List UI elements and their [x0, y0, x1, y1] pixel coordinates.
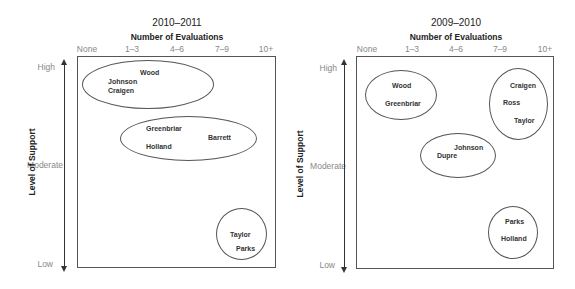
x-tick-4-6: 4–6 [170, 44, 184, 54]
y-tick-moderate: Moderate [310, 161, 346, 171]
y-tick-low: Low [37, 259, 53, 269]
name-holland: Holland [501, 235, 527, 242]
cluster-wood-johnson-craigen [82, 60, 214, 109]
y-tick-high: High [320, 63, 337, 73]
name-taylor: Taylor [230, 231, 251, 238]
panel-title: 2009–2010 [356, 17, 556, 28]
name-parks: Parks [236, 245, 255, 252]
x-axis-label: Number of Evaluations [77, 32, 277, 42]
arrow-down-icon [61, 266, 67, 272]
x-tick-1-3: 1–3 [125, 44, 139, 54]
cluster-wood-greenbriar [365, 70, 437, 120]
x-tick-7-9: 7–9 [493, 44, 507, 54]
name-johnson: Johnson [454, 144, 483, 151]
y-axis-label: Level of Support [27, 127, 37, 197]
x-axis-label: Number of Evaluations [356, 32, 556, 42]
panel-2010-2011: 2010–2011 Number of Evaluations None 1–3… [0, 0, 285, 289]
panel-2009-2010: 2009–2010 Number of Evaluations None 1–3… [285, 0, 575, 289]
name-wood: Wood [392, 82, 411, 89]
y-tick-high: High [38, 62, 55, 72]
y-axis-arrow [344, 63, 345, 269]
name-wood: Wood [140, 69, 159, 76]
name-barrett: Barrett [208, 134, 231, 141]
y-axis-label: Level of Support [295, 129, 305, 199]
panel-title: 2010–2011 [77, 17, 277, 28]
name-dupre: Dupre [437, 152, 457, 159]
name-craigen: Craigen [510, 82, 536, 89]
cluster-johnson-dupre [420, 133, 496, 178]
name-holland: Holland [146, 143, 172, 150]
x-tick-1-3: 1–3 [405, 44, 419, 54]
x-tick-10plus: 10+ [538, 44, 552, 54]
x-tick-7-9: 7–9 [215, 44, 229, 54]
name-greenbriar: Greenbriar [146, 125, 182, 132]
cluster-parks-holland [488, 206, 538, 259]
x-tick-10plus: 10+ [259, 44, 273, 54]
y-axis-arrow [64, 63, 65, 268]
x-tick-none: None [357, 44, 377, 54]
name-parks: Parks [505, 218, 524, 225]
arrow-down-icon [341, 267, 347, 273]
name-taylor: Taylor [514, 117, 535, 124]
name-greenbriar: Greenbriar [385, 100, 421, 107]
x-tick-none: None [77, 44, 97, 54]
name-johnson: Johnson [108, 78, 137, 85]
cluster-greenbriar-barrett-holland [120, 116, 257, 161]
y-tick-low: Low [319, 260, 335, 270]
name-craigen: Craigen [108, 87, 134, 94]
x-tick-4-6: 4–6 [449, 44, 463, 54]
name-ross: Ross [503, 99, 520, 106]
